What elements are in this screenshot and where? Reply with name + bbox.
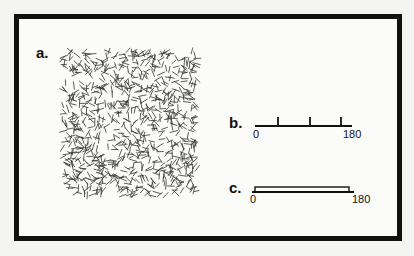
panel-b-max-label: 180 bbox=[343, 128, 361, 140]
panel-c-min-label: 0 bbox=[250, 193, 256, 205]
panel-b-axis bbox=[255, 117, 352, 126]
line-texture bbox=[60, 48, 201, 199]
panel-c-max-label: 180 bbox=[352, 193, 370, 205]
panel-c-axis bbox=[252, 187, 354, 192]
panel-b-min-label: 0 bbox=[253, 128, 259, 140]
